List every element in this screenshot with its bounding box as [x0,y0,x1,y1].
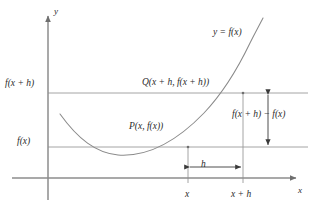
point-p-label: P(x, f(x)) [129,122,163,132]
x-axis-label: x [298,186,302,195]
y-tick-label-fx: f(x) [17,137,30,147]
difference-quotient-figure: y x y = f(x) Q(x + h, f(x + h)) P(x, f(x… [0,0,314,211]
figure-canvas [0,0,314,211]
run-annotation-label: h [201,160,206,170]
curve-equation-label: y = f(x) [213,28,242,38]
point-q-label: Q(x + h, f(x + h)) [142,78,209,88]
point-q-marker [242,92,245,95]
x-tick-label-x: x [185,190,189,200]
point-p-marker [187,146,190,149]
y-axis-label: y [54,7,58,16]
y-tick-label-fxh: f(x + h) [5,79,34,89]
rise-annotation-label: f(x + h) − f(x) [232,110,285,120]
x-tick-label-x-plus-h: x + h [231,190,251,200]
